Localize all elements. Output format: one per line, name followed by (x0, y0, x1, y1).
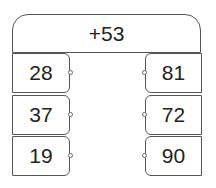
output-cell-1: 81 (145, 53, 202, 93)
input-value: 19 (29, 144, 52, 168)
output-value: 81 (162, 61, 185, 85)
connector-dot (68, 153, 73, 158)
input-cell-1: 28 (12, 53, 70, 93)
connector-dot (142, 153, 147, 158)
input-value: 37 (29, 103, 52, 127)
connector-dot (68, 112, 73, 117)
input-cell-3: 19 (12, 136, 70, 176)
output-value: 72 (162, 103, 185, 127)
connector-dot (68, 70, 73, 75)
connector-dot (142, 112, 147, 117)
output-value: 90 (162, 144, 185, 168)
output-cell-2: 72 (145, 95, 202, 135)
input-value: 28 (29, 61, 52, 85)
operation-header: +53 (12, 14, 201, 53)
connector-dot (142, 70, 147, 75)
output-cell-3: 90 (145, 136, 202, 176)
input-cell-2: 37 (12, 95, 70, 135)
